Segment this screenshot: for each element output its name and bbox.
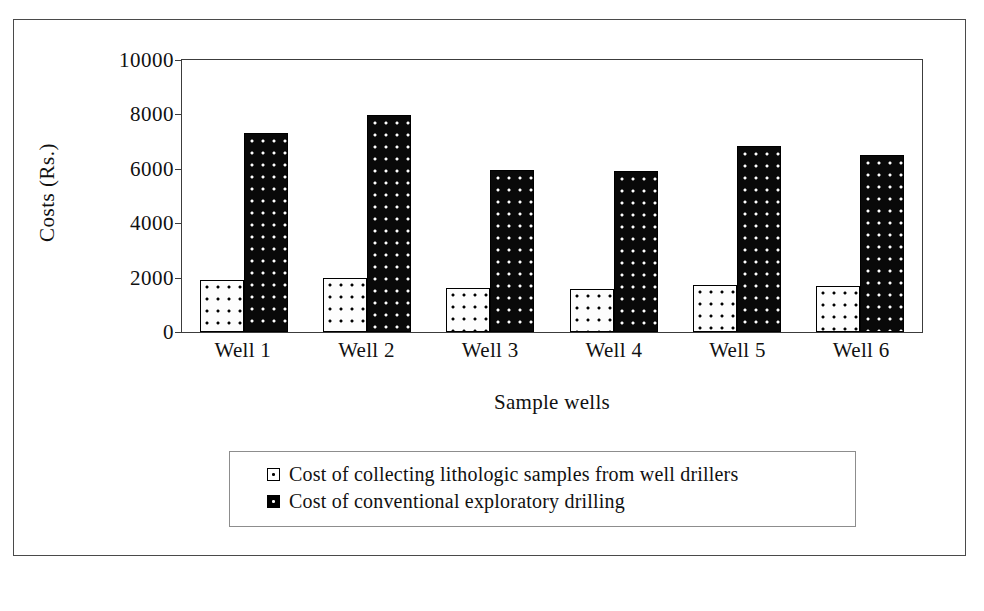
- x-axis-tick-label: Well 5: [676, 338, 800, 363]
- y-axis-tick-label: 4000: [130, 211, 174, 236]
- bar: [693, 285, 737, 332]
- y-axis-title: Costs (Rs.): [35, 113, 60, 273]
- y-axis-tick-mark: [175, 332, 182, 333]
- legend-item: Cost of conventional exploratory drillin…: [230, 488, 855, 515]
- bar: [570, 289, 614, 332]
- plot-area: 0200040006000800010000: [181, 59, 923, 333]
- bar: [614, 171, 658, 332]
- bar: [244, 133, 288, 332]
- bar: [860, 155, 904, 332]
- bar: [446, 288, 490, 332]
- bar: [490, 170, 534, 332]
- dotted-white-square-icon: [267, 468, 280, 481]
- legend-item-label: Cost of conventional exploratory drillin…: [289, 490, 625, 513]
- y-axis-tick-label: 0: [163, 320, 174, 345]
- x-axis-tick-labels: Well 1Well 2Well 3Well 4Well 5Well 6: [181, 338, 923, 363]
- legend-item-label: Cost of collecting lithologic samples fr…: [289, 463, 738, 486]
- chart-legend: Cost of collecting lithologic samples fr…: [229, 451, 856, 527]
- bar-group: [429, 60, 552, 332]
- page-frame: Costs (Rs.) 0200040006000800010000 Well …: [13, 19, 966, 556]
- y-axis-tick-label: 10000: [119, 48, 174, 73]
- bar-chart: Costs (Rs.) 0200040006000800010000 Well …: [14, 20, 967, 557]
- y-axis-tick-label: 2000: [130, 265, 174, 290]
- y-axis-tick-mark: [175, 60, 182, 61]
- legend-item: Cost of collecting lithologic samples fr…: [230, 461, 855, 488]
- bar-groups: [182, 60, 922, 332]
- x-axis-tick-label: Well 6: [799, 338, 923, 363]
- x-axis-tick-label: Well 2: [305, 338, 429, 363]
- dotted-black-square-icon: [267, 495, 280, 508]
- bar: [816, 286, 860, 332]
- y-axis-tick-mark: [175, 169, 182, 170]
- x-axis-tick-label: Well 4: [552, 338, 676, 363]
- bar-group: [182, 60, 305, 332]
- y-axis-tick-label: 6000: [130, 156, 174, 181]
- y-axis-tick-mark: [175, 278, 182, 279]
- bar-group: [675, 60, 798, 332]
- bar: [323, 278, 367, 332]
- y-axis-tick-mark: [175, 223, 182, 224]
- bar-group: [799, 60, 922, 332]
- x-axis-title: Sample wells: [181, 390, 923, 415]
- bar-group: [552, 60, 675, 332]
- bar: [367, 115, 411, 332]
- bar: [200, 280, 244, 332]
- y-axis-tick-mark: [175, 114, 182, 115]
- bar-group: [305, 60, 428, 332]
- bar: [737, 146, 781, 332]
- x-axis-tick-label: Well 1: [181, 338, 305, 363]
- x-axis-tick-label: Well 3: [428, 338, 552, 363]
- y-axis-tick-label: 8000: [130, 102, 174, 127]
